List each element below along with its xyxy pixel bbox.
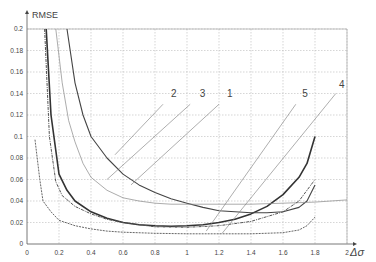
x-tick-label: 1.2 [214,249,223,256]
x-tick-label: 1.4 [246,249,255,256]
x-axis-label: Δσ [349,246,364,258]
y-tick-label: 0.04 [10,197,23,204]
y-tick-label: 0.12 [10,111,23,118]
y-tick-label: 0 [19,240,23,247]
axes [25,10,357,246]
x-tick-label: 0.2 [54,249,63,256]
annotation-label-3: 3 [200,88,206,99]
y-tick-label: 0.02 [10,219,23,226]
series-line-5 [45,29,315,227]
y-axis-arrow-icon [25,10,29,14]
y-tick-label: 0.06 [10,176,23,183]
series-line-2 [67,29,315,213]
annotation-label-4: 4 [339,79,345,90]
data-series [35,29,347,234]
rmse-line-chart: 00.20.40.60.811.21.41.61.8200.020.040.06… [0,0,376,262]
x-tick-label: 1.8 [310,249,319,256]
series-line-4 [35,140,315,234]
annotation-leader-2 [115,104,163,155]
annotation-label-2: 2 [171,88,177,99]
y-tick-label: 0.16 [10,68,23,75]
x-tick-label: 1 [185,249,189,256]
chart-canvas: 00.20.40.60.811.21.41.61.8200.020.040.06… [0,0,376,262]
x-tick-label: 0 [25,249,29,256]
series-line-1 [46,29,315,226]
annotation-label-5: 5 [302,88,308,99]
y-tick-label: 0.18 [10,47,23,54]
grid-lines [27,29,347,244]
y-tick-label: 0.08 [10,154,23,161]
x-tick-label: 0.6 [118,249,127,256]
annotation-label-1: 1 [227,88,233,99]
annotation-leader-1 [131,104,219,185]
x-tick-label: 2 [345,249,349,256]
y-tick-label: 0.1 [14,133,23,140]
y-axis-label: RMSE [32,10,58,20]
y-tick-label: 0.14 [10,90,23,97]
y-tick-label: 0.2 [14,25,23,32]
x-tick-label: 0.4 [86,249,95,256]
x-tick-label: 1.6 [278,249,287,256]
x-tick-label: 0.8 [150,249,159,256]
series-line-3 [56,29,347,204]
